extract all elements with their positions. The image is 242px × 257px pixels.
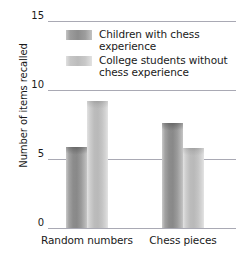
bar-cap (162, 123, 183, 133)
x-tick-label: Chess pieces (123, 234, 242, 246)
legend-swatch-children-icon (66, 30, 92, 40)
bar (183, 148, 204, 228)
legend-label: College students without chess experienc… (99, 54, 242, 78)
bar-chart: Number of items recalled 051015 Children… (0, 0, 242, 257)
bar-cap (183, 148, 204, 158)
bar-body (162, 128, 183, 228)
y-axis-title: Number of items recalled (18, 26, 29, 186)
bar (87, 101, 108, 228)
bar-cap (66, 147, 87, 157)
legend-swatch-college-icon (66, 56, 92, 66)
legend-label: Children with chess experience (99, 28, 242, 52)
chart-legend: Children with chess experience College s… (66, 28, 242, 80)
bar-body (66, 152, 87, 228)
bar-cap (87, 101, 108, 111)
y-tick-label: 15 (31, 10, 44, 21)
legend-item: Children with chess experience (66, 28, 242, 52)
gridline (48, 21, 236, 22)
legend-item: College students without chess experienc… (66, 54, 242, 78)
bar (162, 123, 183, 228)
bar-body (183, 153, 204, 228)
y-tick-label: 10 (31, 79, 44, 90)
y-tick-label: 5 (38, 148, 44, 159)
y-tick-label: 0 (38, 217, 44, 228)
gridline (48, 90, 236, 91)
bar (66, 147, 87, 228)
gridline (48, 228, 236, 229)
bar-body (87, 106, 108, 228)
